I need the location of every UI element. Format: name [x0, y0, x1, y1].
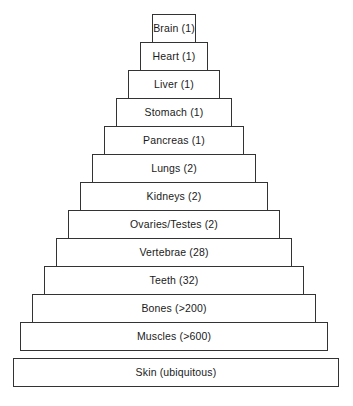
pyramid-level: Vertebrae (28) — [56, 238, 292, 267]
pyramid-level-label: Muscles (>600) — [137, 331, 211, 342]
pyramid-level: Skin (ubiquitous) — [13, 358, 339, 387]
pyramid-level: Pancreas (1) — [104, 126, 244, 155]
pyramid-level: Liver (1) — [128, 70, 220, 99]
pyramid-level: Teeth (32) — [44, 266, 304, 295]
pyramid-level-label: Ovaries/Testes (2) — [130, 219, 218, 230]
pyramid-level: Kidneys (2) — [80, 182, 268, 211]
pyramid-level: Ovaries/Testes (2) — [68, 210, 280, 239]
pyramid-level-label: Lungs (2) — [151, 163, 197, 174]
pyramid-level: Lungs (2) — [92, 154, 256, 183]
pyramid-level-label: Teeth (32) — [150, 275, 199, 286]
pyramid-level-label: Vertebrae (28) — [139, 247, 208, 258]
pyramid-level: Muscles (>600) — [20, 322, 328, 351]
pyramid-level-label: Liver (1) — [154, 79, 194, 90]
pyramid-level-label: Bones (>200) — [141, 303, 206, 314]
pyramid-level-label: Pancreas (1) — [143, 135, 205, 146]
pyramid-level-label: Heart (1) — [153, 51, 196, 62]
pyramid-level-label: Skin (ubiquitous) — [136, 367, 217, 378]
pyramid-level: Heart (1) — [140, 42, 208, 71]
pyramid-level: Brain (1) — [152, 14, 196, 43]
pyramid-level: Stomach (1) — [116, 98, 232, 127]
pyramid-level-label: Brain (1) — [153, 23, 195, 34]
pyramid-diagram: Brain (1)Heart (1)Liver (1)Stomach (1)Pa… — [0, 0, 353, 406]
pyramid-level-label: Kidneys (2) — [147, 191, 202, 202]
pyramid-level: Bones (>200) — [32, 294, 316, 323]
pyramid-level-label: Stomach (1) — [145, 107, 204, 118]
